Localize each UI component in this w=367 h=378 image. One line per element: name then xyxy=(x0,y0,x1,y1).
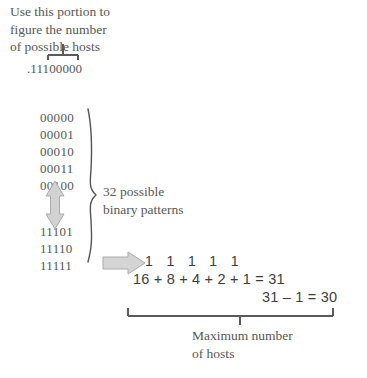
binary-pattern-list-top: 00000 00001 00010 00011 00100 xyxy=(40,110,74,194)
host-calculation-figure: Use this portion to figure the number of… xyxy=(0,0,367,378)
maximum-hosts-caption: Maximum number of hosts xyxy=(192,327,293,362)
sum-equation: 16 + 8 + 4 + 2 + 1 = 31 xyxy=(133,271,285,287)
maximum-hosts-bracket xyxy=(128,308,333,325)
binary-pattern-list-bottom: 11101 11110 11111 xyxy=(40,224,73,275)
brace-caption: 32 possible binary patterns xyxy=(103,183,184,218)
bit-values-row: 1 1 1 1 1 xyxy=(145,253,239,269)
octet-label: .11100000 xyxy=(27,61,82,78)
binary-patterns-brace xyxy=(88,109,96,262)
header-note: Use this portion to figure the number of… xyxy=(10,3,110,56)
subtraction-equation: 31 – 1 = 30 xyxy=(262,289,337,305)
